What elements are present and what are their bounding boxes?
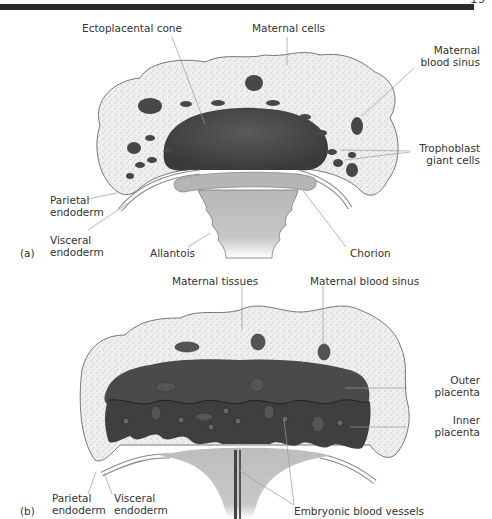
panel-b-tag: (b) bbox=[20, 505, 35, 517]
panel-a-tag: (a) bbox=[20, 247, 35, 259]
label-parietal-endoderm-b: Parietal endoderm bbox=[52, 492, 106, 516]
label-parietal-endoderm-a: Parietal endoderm bbox=[50, 194, 104, 218]
label-inner-placenta: Inner placenta bbox=[420, 414, 480, 438]
label-allantois: Allantois bbox=[150, 247, 195, 259]
label-ectoplacental-cone: Ectoplacental cone bbox=[82, 22, 182, 34]
panel-b-diagram bbox=[80, 306, 409, 519]
chorion-a bbox=[174, 172, 316, 192]
label-outer-placenta: Outer placenta bbox=[420, 374, 480, 398]
label-maternal-blood-sinus-a: Maternal blood sinus bbox=[414, 44, 480, 68]
label-chorion: Chorion bbox=[350, 247, 391, 259]
allantois-a bbox=[198, 190, 298, 258]
outer-placenta bbox=[104, 359, 369, 405]
label-visceral-endoderm-a: Visceral endoderm bbox=[50, 234, 104, 258]
panel-a-diagram bbox=[97, 52, 398, 258]
label-maternal-cells: Maternal cells bbox=[252, 22, 325, 34]
label-embryonic-blood-vessels: Embryonic blood vessels bbox=[294, 505, 424, 517]
label-maternal-tissues: Maternal tissues bbox=[172, 275, 258, 287]
label-maternal-blood-sinus-b: Maternal blood sinus bbox=[310, 275, 419, 287]
label-trophoblast-giant-cells: Trophoblast giant cells bbox=[410, 142, 480, 166]
placenta-figure bbox=[0, 0, 492, 519]
label-visceral-endoderm-b: Visceral endoderm bbox=[114, 492, 168, 516]
